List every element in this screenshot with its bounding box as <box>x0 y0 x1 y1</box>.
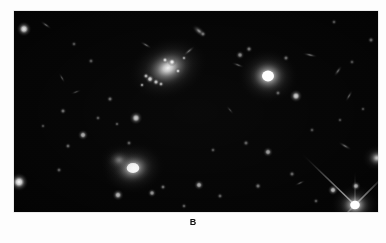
star <box>59 107 66 114</box>
star <box>65 143 72 150</box>
star <box>160 184 167 191</box>
sky-field-canvas <box>14 11 378 212</box>
star <box>126 140 133 147</box>
hii-knot <box>175 68 181 74</box>
hii-knot <box>168 58 177 67</box>
star <box>194 180 205 191</box>
star <box>360 106 366 112</box>
star <box>351 181 361 191</box>
faint-halo-galaxy-lower-left <box>106 149 132 171</box>
star <box>337 117 343 123</box>
star <box>331 19 337 25</box>
panel-caption-label: B <box>0 216 386 228</box>
star <box>112 189 124 201</box>
star <box>181 203 187 209</box>
star <box>275 90 282 97</box>
star <box>245 45 253 53</box>
star <box>288 170 295 177</box>
star <box>289 89 302 102</box>
hii-knot <box>181 55 187 61</box>
star <box>199 30 206 37</box>
star <box>327 184 338 195</box>
star <box>217 193 224 200</box>
star <box>16 21 32 37</box>
star <box>309 127 315 133</box>
star <box>56 167 63 174</box>
star <box>129 111 143 125</box>
hii-knot <box>139 82 145 88</box>
saturated-star-bottom-right-core <box>350 201 360 209</box>
star <box>95 115 101 121</box>
star <box>254 182 262 190</box>
star <box>349 59 355 65</box>
star <box>71 41 77 47</box>
hii-knot <box>142 72 149 79</box>
astronomical-image-plate <box>14 11 378 212</box>
star <box>147 188 156 197</box>
star <box>263 147 274 158</box>
star <box>210 147 216 153</box>
star <box>313 198 319 204</box>
star <box>88 58 95 65</box>
star <box>106 95 113 102</box>
figure-panel-b: B <box>0 0 386 243</box>
bright-elliptical-galaxy-right-core <box>262 71 274 82</box>
star <box>367 36 374 43</box>
hii-knot <box>161 56 168 63</box>
hii-knot <box>158 81 165 88</box>
star <box>40 123 46 129</box>
star <box>77 129 88 140</box>
star <box>114 121 120 127</box>
star <box>282 54 289 61</box>
star <box>242 139 249 146</box>
star <box>235 50 244 59</box>
